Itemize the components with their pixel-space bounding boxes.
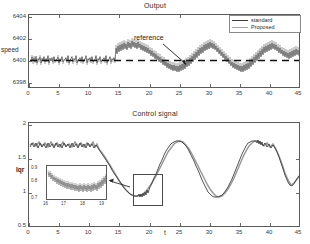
matlab-figure: Output 6404 6402 6400 6398 speed — [0, 0, 310, 244]
reference-annotation-arrow — [0, 0, 310, 110]
top-panel: Output 6404 6402 6400 6398 speed — [0, 0, 310, 110]
inset-connector-arrow — [0, 110, 310, 244]
bottom-panel: Control signal 2 1.5 1 0.5 Iqr — [0, 110, 310, 244]
